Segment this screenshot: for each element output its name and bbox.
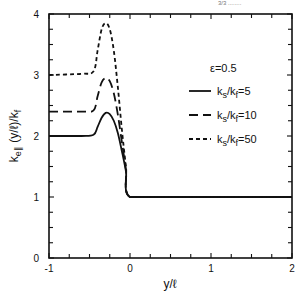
chart: 3/3 ........ -1012 01234 ε=0.5 ks/kf=5ks…: [0, 0, 303, 295]
y-tick-label: 1: [33, 192, 39, 203]
y-tick-labels: 01234: [33, 9, 39, 264]
x-tick-label: 1: [208, 263, 214, 274]
y-tick-label: 2: [33, 131, 39, 142]
x-axis-label: y/ℓ: [163, 277, 176, 291]
y-tick-label: 4: [33, 9, 39, 20]
legend-label: ks/kf=5: [217, 85, 251, 100]
svg-text:ke∥ (y/ℓ)/kf: ke∥ (y/ℓ)/kf: [7, 109, 23, 162]
y-axis-label: ke∥ (y/ℓ)/kf: [7, 109, 23, 162]
legend: ε=0.5 ks/kf=5ks/kf=10ks/kf=50: [189, 62, 257, 148]
legend-label: ks/kf=10: [217, 109, 257, 124]
x-tick-labels: -1012: [45, 263, 296, 274]
epsilon-annotation: ε=0.5: [210, 62, 237, 74]
y-tick-label: 0: [33, 253, 39, 264]
y-tick-label: 3: [33, 70, 39, 81]
x-tick-label: 2: [289, 263, 295, 274]
x-tick-label: -1: [45, 263, 54, 274]
x-tick-label: 0: [127, 263, 133, 274]
page-header-fragment: 3/3 ........: [218, 0, 242, 6]
curve-ks-kf-5: [49, 113, 292, 197]
legend-label: ks/kf=50: [217, 133, 257, 148]
